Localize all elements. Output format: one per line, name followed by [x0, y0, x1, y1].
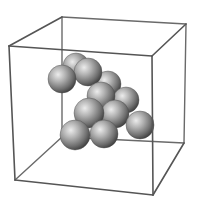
- sphere: [60, 120, 90, 150]
- cube-edge-bottom-right-depth: [153, 143, 184, 195]
- cube-edge-back-right: [184, 24, 186, 143]
- cube-edge-front-left: [9, 46, 15, 180]
- cube-edge-back-top: [62, 17, 186, 24]
- sphere: [126, 111, 154, 139]
- sphere: [74, 58, 102, 86]
- cube-edge-bottom-left-depth: [15, 137, 62, 180]
- sphere-group: [48, 53, 154, 150]
- cube-edge-top-right-depth: [152, 24, 186, 56]
- sphere: [90, 120, 118, 148]
- sphere: [48, 65, 76, 93]
- cube-edge-top-left-depth: [9, 17, 62, 46]
- cube-edge-front-right: [152, 56, 153, 195]
- cube-edge-front-bottom: [15, 180, 153, 195]
- cube-sphere-diagram: [0, 0, 202, 202]
